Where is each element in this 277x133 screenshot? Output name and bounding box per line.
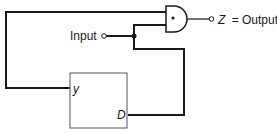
d-input-wire <box>128 36 184 115</box>
port-d-label: D <box>117 108 126 122</box>
and-gate-dot-icon <box>171 16 174 19</box>
output-var-label: Z <box>217 13 226 27</box>
svg-text:Z = Output: Z = Output <box>217 13 277 27</box>
input-terminal-icon <box>102 34 107 39</box>
junction-dot <box>132 34 137 39</box>
input-label: Input <box>70 29 97 43</box>
and-gate <box>166 6 187 32</box>
output-label: = Output <box>232 13 277 27</box>
gate-input-wire <box>134 25 166 36</box>
output-terminal-icon <box>209 17 214 22</box>
circuit-diagram: Z = Output Input y D <box>0 0 277 133</box>
port-y-label: y <box>72 82 80 96</box>
